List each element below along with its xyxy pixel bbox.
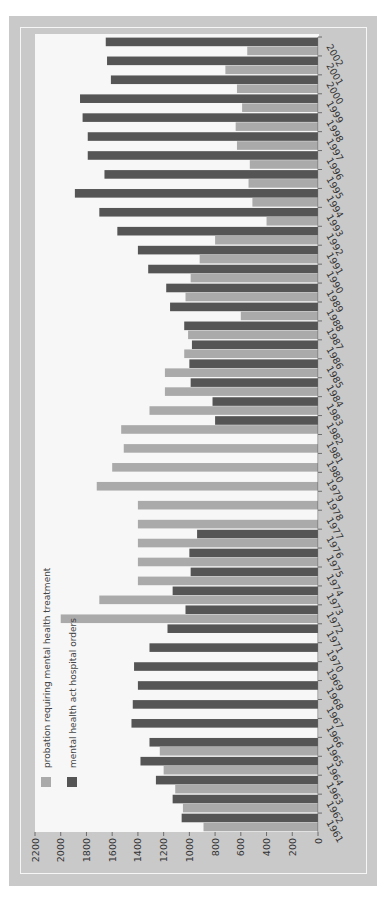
bar-hospital-orders-1993 [99,208,318,217]
legend-label: mental health act hospital orders [68,618,78,768]
value-label: 1800 [81,838,92,862]
bar-hospital-orders-2000 [111,75,318,84]
bar-hospital-orders-1964 [140,757,318,766]
bar-probation-1980 [112,463,318,472]
legend-swatch [67,777,77,787]
bar-probation-1986 [184,349,318,358]
bar-probation-1984 [165,387,318,396]
bar-probation-1997 [237,141,318,150]
bar-hospital-orders-1975 [189,549,318,558]
bar-hospital-orders-1982 [215,416,318,425]
bar-hospital-orders-1997 [88,132,318,141]
bar-hospital-orders-1961 [182,814,318,823]
bar-probation-2000 [237,84,318,93]
bar-hospital-orders-1996 [88,151,318,160]
bar-hospital-orders-1988 [170,303,318,312]
bar-probation-1973 [99,596,318,605]
legend-swatch [41,777,51,787]
bar-probation-1983 [149,406,318,415]
bar-hospital-orders-1976 [197,530,318,539]
bar-probation-1965 [160,747,318,756]
bar-hospital-orders-1971 [167,624,318,633]
bar-probation-1976 [138,539,318,548]
bar-hospital-orders-2002 [106,38,318,47]
value-axis: 0200400600800100012001400160018002000220… [30,832,324,862]
bar-probation-2002 [247,47,318,56]
value-label: 800 [210,838,221,856]
value-label: 2000 [55,838,66,862]
bar-probation-1985 [165,368,318,377]
bar-probation-1994 [252,198,318,207]
bar-probation-1964 [164,766,318,775]
bar-probation-1995 [249,179,318,188]
bar-probation-1988 [241,312,318,321]
bar-probation-1979 [97,482,318,491]
bar-probation-1996 [250,160,318,169]
bar-probation-1998 [236,122,318,131]
bar-probation-1993 [267,217,318,226]
bar-hospital-orders-1967 [133,700,318,709]
value-label: 600 [235,838,246,856]
bar-hospital-orders-1999 [80,94,318,103]
bar-hospital-orders-2001 [107,57,318,66]
bar-hospital-orders-1970 [149,643,318,652]
bar-probation-1975 [138,558,318,567]
bar-hospital-orders-1987 [184,322,318,331]
bar-hospital-orders-1991 [138,246,318,255]
value-label: 1400 [132,838,143,862]
bar-probation-1962 [183,804,318,813]
bar-probation-1991 [200,255,318,264]
bar-probation-1977 [138,520,318,529]
bar-hospital-orders-1994 [75,189,318,198]
bar-probation-1982 [121,425,318,434]
bar-hospital-orders-1989 [166,284,318,293]
bar-probation-2001 [225,66,318,75]
bar-hospital-orders-1986 [192,340,318,349]
value-label: 1600 [107,838,118,862]
bar-probation-1972 [61,614,318,623]
bar-hospital-orders-1992 [117,227,318,236]
bar-hospital-orders-1984 [191,378,318,387]
bar-probation-1974 [138,577,318,586]
bar-probation-1961 [204,823,318,832]
value-label: 200 [287,838,298,856]
bar-probation-1963 [175,785,318,794]
bar-hospital-orders-1998 [83,113,318,122]
bar-hospital-orders-1983 [213,397,318,406]
value-label: 1200 [158,838,169,862]
category-axis: 1961196219631964196519661967196819691970… [318,37,346,844]
bar-hospital-orders-1965 [149,738,318,747]
bar-probation-1989 [186,293,318,302]
bar-hospital-orders-1972 [186,605,318,614]
bar-hospital-orders-1990 [148,265,318,274]
bar-hospital-orders-1985 [189,359,318,368]
bar-hospital-orders-1963 [156,776,318,785]
bar-hospital-orders-1974 [191,568,318,577]
bar-hospital-orders-1969 [134,662,318,671]
bar-probation-1987 [188,331,318,340]
bar-hospital-orders-1966 [131,719,318,728]
bar-probation-1992 [215,236,318,245]
bar-hospital-orders-1995 [104,170,318,179]
value-label: 0 [313,838,324,844]
bar-chart: 0200400600800100012001400160018002000220… [0,0,388,906]
bar-probation-1990 [191,274,318,283]
bar-hospital-orders-1968 [138,681,318,690]
bar-probation-1999 [242,103,318,112]
bar-hospital-orders-1973 [173,587,318,596]
value-label: 1000 [184,838,195,862]
value-label: 400 [261,838,272,856]
bar-hospital-orders-1962 [173,795,318,804]
bar-probation-1981 [124,444,318,453]
bar-probation-1978 [138,501,318,510]
value-label: 2200 [30,838,41,862]
legend-label: probation requiring mental health treatm… [42,567,52,768]
